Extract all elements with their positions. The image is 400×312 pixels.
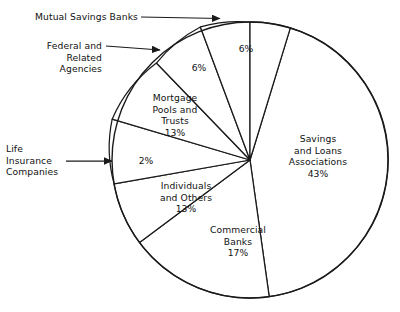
slice-value-federal-and-related-agencies: 6% [186,62,212,74]
callout-mutual-savings-banks: Mutual Savings Banks [18,11,138,23]
pie-chart-figure: Mutual Savings Banks Federal and Related… [0,0,400,312]
leader-line-mutual-savings-banks [141,17,220,19]
callout-federal-and-related-agencies: Federal and Related Agencies [18,40,102,75]
slice-value-mutual-savings-banks: 6% [233,43,259,55]
slice-label-savings-and-loans: Savings and Loans Associations 43% [277,133,359,179]
leader-line-federal-related-agencies [106,46,160,50]
slice-value-life-insurance-companies: 2% [133,155,159,167]
slice-label-mortgage-pools-and-trusts: Mortgage Pools and Trusts 13% [138,92,212,138]
callout-life-insurance-companies: Life Insurance Companies [6,143,68,178]
slice-label-commercial-banks: Commercial Banks 17% [199,224,277,259]
slice-label-individuals-and-others: Individuals and Others 13% [146,180,226,215]
